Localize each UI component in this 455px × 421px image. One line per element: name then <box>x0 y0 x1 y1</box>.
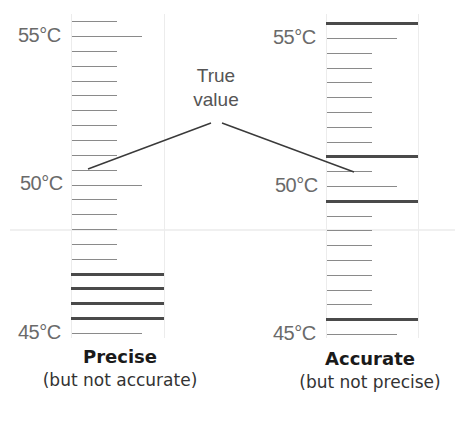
callout-pointer-lines <box>0 0 455 421</box>
